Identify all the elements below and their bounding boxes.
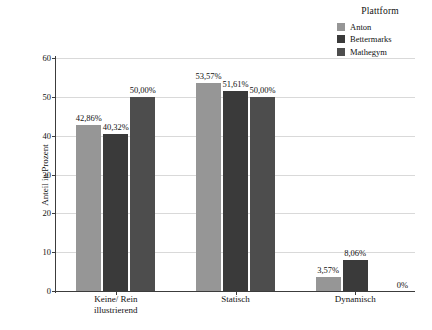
legend-title: Plattform <box>330 6 430 16</box>
bar-value-label: 8,06% <box>344 248 366 258</box>
y-axis-tick-label: 60 <box>43 53 52 63</box>
y-axis-tick-mark <box>52 97 56 98</box>
y-axis-tick-label: 0 <box>47 286 51 296</box>
y-axis-tick-mark <box>52 213 56 214</box>
legend-item[interactable]: Mathegym <box>337 46 430 57</box>
x-axis-tick-label: Keine/ Rein illustrierend <box>56 294 176 316</box>
legend-item[interactable]: Bettermarks <box>337 34 430 45</box>
bar[interactable]: 40,32% <box>103 134 128 291</box>
plot-area: Anteil in Prozent 010203040506042,86%40,… <box>56 58 415 291</box>
legend-swatch-icon <box>337 23 345 31</box>
legend-item-label: Mathegym <box>350 47 387 57</box>
bar-value-label: 51,61% <box>222 79 248 89</box>
legend-swatch-icon <box>337 48 345 56</box>
bar[interactable]: 53,57% <box>196 83 221 291</box>
bar[interactable]: 51,61% <box>223 91 248 291</box>
x-axis-tick-label: Dynamisch <box>295 294 415 305</box>
bar-value-label: 40,32% <box>103 122 129 132</box>
legend-swatch-icon <box>337 35 345 43</box>
bar-value-label: 3,57% <box>317 265 339 275</box>
gridline <box>56 58 415 59</box>
bar[interactable]: 3,57% <box>316 277 341 291</box>
y-axis-tick-label: 10 <box>43 247 52 257</box>
bar[interactable]: 8,06% <box>343 260 368 291</box>
bar[interactable]: 42,86% <box>76 125 101 291</box>
y-axis-tick-mark <box>52 291 56 292</box>
y-axis-tick-label: 20 <box>43 208 52 218</box>
bar-value-label: 0% <box>397 280 408 290</box>
y-axis-tick-label: 30 <box>43 170 52 180</box>
y-axis-tick-mark <box>52 136 56 137</box>
legend-item-label: Anton <box>350 22 371 32</box>
bar[interactable]: 50,00% <box>130 97 155 291</box>
bar-value-label: 50,00% <box>249 85 275 95</box>
y-axis-tick-label: 40 <box>43 131 52 141</box>
legend-item-list: AntonBettermarksMathegym <box>330 21 430 57</box>
legend-item-label: Bettermarks <box>350 34 392 44</box>
legend-item[interactable]: Anton <box>337 21 430 32</box>
x-axis-tick-label: Statisch <box>176 294 296 305</box>
bar-value-label: 50,00% <box>130 85 156 95</box>
y-axis-tick-mark <box>52 58 56 59</box>
bar-chart: Plattform AntonBettermarksMathegym Antei… <box>0 0 432 330</box>
chart-legend: Plattform AntonBettermarksMathegym <box>330 6 430 59</box>
y-axis-tick-label: 50 <box>43 92 52 102</box>
bar-value-label: 53,57% <box>195 71 221 81</box>
y-axis-tick-mark <box>52 252 56 253</box>
y-axis-tick-mark <box>52 175 56 176</box>
bar[interactable]: 50,00% <box>250 97 275 291</box>
bar-value-label: 42,86% <box>76 113 102 123</box>
